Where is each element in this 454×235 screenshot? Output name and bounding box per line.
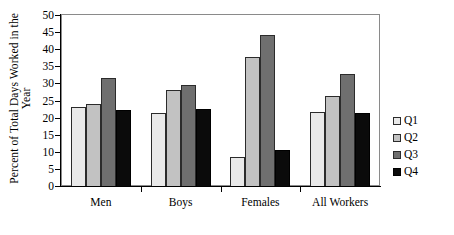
legend-label: Q2	[404, 132, 418, 144]
bar-group	[141, 15, 221, 186]
bar[interactable]	[275, 150, 290, 186]
legend-label: Q1	[404, 115, 418, 127]
legend-item-q4[interactable]: Q4	[393, 163, 451, 180]
bar-group	[61, 15, 141, 186]
legend-swatch-icon	[393, 117, 401, 125]
bar[interactable]	[325, 96, 340, 186]
legend-label: Q4	[404, 166, 418, 178]
x-axis-category-label: All Workers	[312, 196, 368, 208]
y-axis-tick-label: 25	[43, 95, 55, 107]
y-axis-tick-labels: 05101520253035404550	[30, 14, 58, 186]
y-axis-title-text: Percent of Total Days Worked in the Year	[8, 13, 33, 184]
bar[interactable]	[196, 109, 211, 186]
y-axis-tick-label: 45	[43, 26, 55, 38]
legend-item-q1[interactable]: Q1	[393, 112, 451, 129]
legend: Q1Q2Q3Q4	[393, 112, 451, 180]
bar[interactable]	[260, 35, 275, 187]
y-axis-tick-label: 15	[43, 129, 55, 141]
x-axis-tick-mark	[141, 187, 142, 192]
bar-group	[221, 15, 301, 186]
y-axis-tick-label: 50	[43, 9, 55, 21]
y-axis-tick-label: 0	[48, 180, 54, 192]
bar[interactable]	[181, 85, 196, 186]
bar[interactable]	[151, 113, 166, 186]
bar[interactable]	[86, 104, 101, 186]
bar-groups	[61, 15, 379, 186]
bar-chart-figure: Percent of Total Days Worked in the Year…	[0, 0, 454, 235]
bar[interactable]	[245, 57, 260, 186]
legend-swatch-icon	[393, 151, 401, 159]
legend-item-q2[interactable]: Q2	[393, 129, 451, 146]
y-axis-tick-label: 20	[43, 112, 55, 124]
legend-swatch-icon	[393, 134, 401, 142]
bar-group	[300, 15, 380, 186]
bar[interactable]	[71, 107, 86, 186]
legend-item-q3[interactable]: Q3	[393, 146, 451, 163]
y-axis-tick-label: 35	[43, 60, 55, 72]
y-axis-tick-label: 10	[43, 146, 55, 158]
y-axis-tick-label: 5	[48, 163, 54, 175]
legend-label: Q3	[404, 149, 418, 161]
x-axis-category-label: Females	[241, 196, 279, 208]
x-axis-tick-mark	[300, 187, 301, 192]
bar[interactable]	[340, 74, 355, 186]
bar[interactable]	[166, 90, 181, 186]
x-axis-category-label: Boys	[169, 196, 193, 208]
x-axis-tick-mark	[221, 187, 222, 192]
bar[interactable]	[355, 113, 370, 186]
bar[interactable]	[116, 110, 131, 186]
bar[interactable]	[101, 78, 116, 186]
x-axis-category-label: Men	[90, 196, 111, 208]
bar[interactable]	[230, 157, 245, 186]
y-axis-title-line-1: Percent of Total Days Worked in the	[8, 13, 21, 184]
y-axis-tick-label: 30	[43, 77, 55, 89]
legend-swatch-icon	[393, 168, 401, 176]
bar[interactable]	[310, 112, 325, 186]
y-axis-tick-label: 40	[43, 43, 55, 55]
